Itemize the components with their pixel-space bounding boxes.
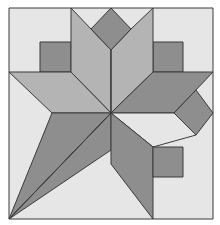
bottom-right-small-square [153,147,183,177]
quilt-block [0,0,220,225]
top-right-small-square [153,42,183,72]
top-left-small-square [40,42,71,72]
